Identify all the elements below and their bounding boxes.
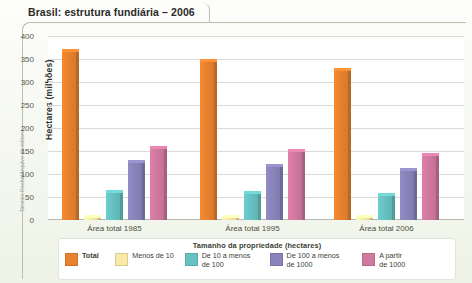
bar-group [200, 36, 324, 220]
y-axis-tick-label: 100 [0, 170, 34, 179]
legend-title: Tamanho da propriedade (hectares) [59, 241, 455, 250]
bar-face [422, 153, 436, 220]
bar [200, 59, 217, 220]
bar-side [436, 156, 439, 220]
legend-label: De 100 a menos de 1000 [287, 252, 340, 269]
chart-figure: Tarcisio Rocha/Arquivo da editora Brasil… [0, 0, 472, 283]
chart-legend: Tamanho da propriedade (hectares) TotalM… [58, 238, 456, 280]
bar-side [164, 149, 167, 220]
bar-top [378, 193, 395, 196]
bar-top [400, 168, 417, 171]
bar-top [106, 190, 123, 193]
legend-item[interactable]: Total [65, 252, 115, 266]
bar [288, 149, 305, 220]
bar-side [392, 196, 395, 220]
x-axis-category-label: Área total 1985 [50, 224, 179, 233]
bar [106, 190, 123, 220]
bar-top [334, 68, 351, 71]
bar-top [422, 153, 439, 156]
bar [222, 215, 239, 220]
y-axis-tick-label: 0 [0, 216, 34, 225]
bar-face [288, 149, 302, 220]
bar [84, 215, 101, 220]
bar-face [378, 193, 392, 220]
bar-side [302, 152, 305, 220]
legend-label: De 10 a menos de 100 [202, 252, 251, 269]
x-axis-category-label: Área total 2006 [322, 224, 451, 233]
bar [128, 160, 145, 220]
bar-top [150, 146, 167, 149]
bar-group [62, 36, 186, 220]
legend-label: Menos de 10 [132, 252, 174, 261]
bar-side [214, 62, 217, 220]
legend-item[interactable]: A partir de 1000 [362, 252, 428, 269]
bar-top [62, 49, 79, 52]
legend-swatch-icon [362, 253, 375, 266]
bar [150, 146, 167, 220]
bar-side [76, 52, 79, 220]
bar-side [120, 193, 123, 220]
bar-side [280, 167, 283, 220]
bar-face [150, 146, 164, 220]
legend-label: A partir de 1000 [379, 252, 405, 269]
chart-title: Brasil: estrutura fundiária – 2006 [18, 3, 210, 22]
y-axis-tick-label: 250 [0, 101, 34, 110]
bar [356, 215, 373, 220]
x-axis-category-label: Área total 1995 [188, 224, 317, 233]
legend-swatch-icon [185, 253, 198, 266]
bar-face [106, 190, 120, 220]
bar-top [244, 191, 261, 194]
bar-face [334, 68, 348, 220]
bar [244, 191, 261, 220]
bar [62, 49, 79, 220]
y-axis-tick-label: 50 [0, 193, 34, 202]
y-axis-tick-label: 400 [0, 32, 34, 41]
bar-side [414, 171, 417, 220]
legend-item[interactable]: De 100 a menos de 1000 [270, 252, 363, 269]
plot-area: Hectares (milhões)0501001502002503003504… [48, 36, 464, 220]
bar-top [128, 160, 145, 163]
bar-side [370, 218, 373, 220]
bar-top [84, 215, 101, 218]
legend-item[interactable]: De 10 a menos de 100 [185, 252, 270, 269]
legend-swatch-icon [270, 253, 283, 266]
bar [266, 164, 283, 220]
bar-face [62, 49, 76, 220]
bar-side [348, 71, 351, 220]
y-axis-tick-label: 150 [0, 147, 34, 156]
legend-swatch-icon [115, 253, 128, 266]
bar [400, 168, 417, 220]
legend-swatch-icon [65, 253, 78, 266]
bar-face [400, 168, 414, 220]
bar-top [200, 59, 217, 62]
bar-top [266, 164, 283, 167]
bar [378, 193, 395, 220]
bar [422, 153, 439, 220]
y-axis-tick-label: 350 [0, 55, 34, 64]
bar-side [142, 163, 145, 220]
bar-group [334, 36, 458, 220]
legend-item-list: TotalMenos de 10De 10 a menos de 100De 1… [65, 252, 451, 269]
y-axis-tick-label: 200 [0, 124, 34, 133]
bar-face [128, 160, 142, 220]
legend-item[interactable]: Menos de 10 [115, 252, 184, 266]
bar-side [98, 218, 101, 220]
bar-face [244, 191, 258, 220]
bar-top [288, 149, 305, 152]
bar-face [266, 164, 280, 220]
bar [334, 68, 351, 220]
bar-side [258, 194, 261, 220]
bar-side [236, 218, 239, 220]
bar-top [222, 215, 239, 218]
bar-face [200, 59, 214, 220]
legend-label: Total [82, 252, 99, 261]
bar-top [356, 215, 373, 218]
y-axis-tick-label: 300 [0, 78, 34, 87]
